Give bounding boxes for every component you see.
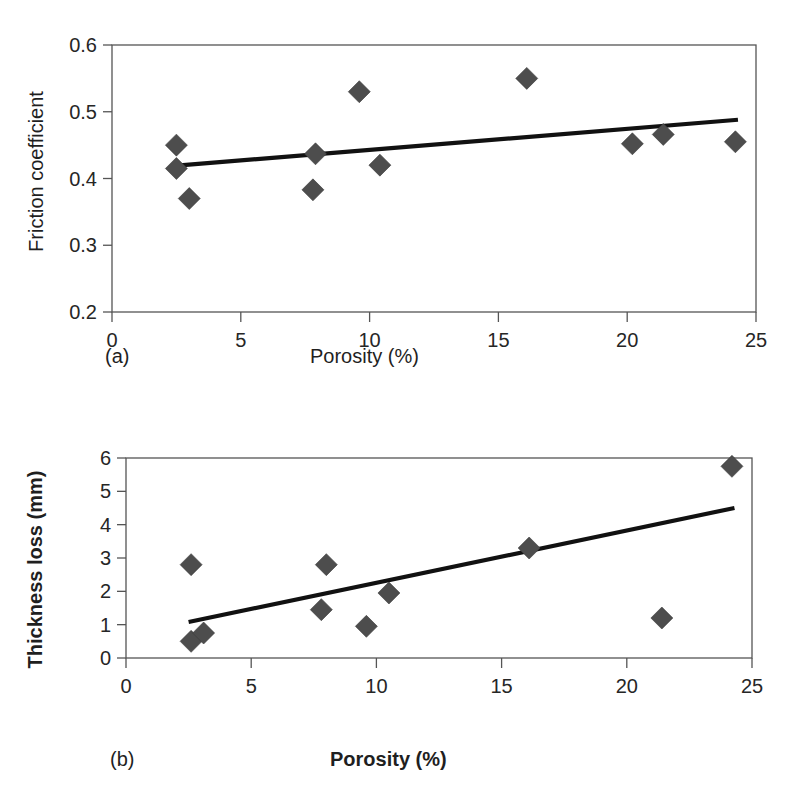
x-axis-title-a: Porosity (%) xyxy=(310,345,419,368)
data-point-marker xyxy=(369,154,391,176)
x-tick-label: 15 xyxy=(490,675,512,697)
y-tick-label: 5 xyxy=(100,480,111,502)
data-point-marker xyxy=(348,81,370,103)
data-point-marker xyxy=(302,179,324,201)
x-tick-label: 15 xyxy=(487,329,509,351)
x-tick-label: 5 xyxy=(235,329,246,351)
y-tick-label: 1 xyxy=(100,614,111,636)
y-axis-title-b: Thickness loss (mm) xyxy=(24,440,47,700)
chart-panel-b: 01234560510152025 Thickness loss (mm) Po… xyxy=(0,400,796,791)
data-point-marker xyxy=(355,615,377,637)
data-point-marker xyxy=(378,582,400,604)
data-point-marker xyxy=(516,67,538,89)
data-point-marker xyxy=(518,537,540,559)
y-tick-label: 0.2 xyxy=(69,301,97,323)
data-point-marker xyxy=(315,554,337,576)
x-tick-label: 25 xyxy=(741,675,763,697)
scatter-plot-b: 01234560510152025 xyxy=(0,400,796,791)
y-tick-label: 0.4 xyxy=(69,168,97,190)
y-tick-label: 4 xyxy=(100,514,111,536)
figure-container: 0.20.30.40.50.60510152025 Friction coeff… xyxy=(0,0,796,791)
y-tick-label: 0.3 xyxy=(69,234,97,256)
y-axis-title-a: Friction coefficient xyxy=(25,62,48,282)
trendline xyxy=(189,508,735,622)
y-tick-label: 0.5 xyxy=(69,101,97,123)
data-point-marker xyxy=(305,143,327,165)
scatter-plot-a: 0.20.30.40.50.60510152025 xyxy=(0,0,796,400)
data-point-marker xyxy=(165,157,187,179)
x-tick-label: 10 xyxy=(365,675,387,697)
plot-frame xyxy=(112,45,756,312)
data-point-marker xyxy=(165,134,187,156)
y-tick-label: 3 xyxy=(100,547,111,569)
y-tick-label: 0 xyxy=(100,647,111,669)
trendline xyxy=(174,120,738,166)
data-point-marker xyxy=(621,133,643,155)
y-tick-label: 6 xyxy=(100,447,111,469)
y-tick-label: 2 xyxy=(100,580,111,602)
data-point-marker xyxy=(651,607,673,629)
data-point-marker xyxy=(310,599,332,621)
x-tick-label: 20 xyxy=(616,329,638,351)
x-axis-title-b: Porosity (%) xyxy=(330,748,447,771)
x-tick-label: 25 xyxy=(745,329,767,351)
chart-panel-a: 0.20.30.40.50.60510152025 Friction coeff… xyxy=(0,0,796,400)
panel-label-a: (a) xyxy=(105,345,129,368)
panel-label-b: (b) xyxy=(110,748,134,771)
data-point-marker xyxy=(180,554,202,576)
x-tick-label: 5 xyxy=(246,675,257,697)
x-tick-label: 0 xyxy=(120,675,131,697)
plot-frame xyxy=(126,458,752,658)
data-point-marker xyxy=(178,188,200,210)
x-tick-label: 20 xyxy=(616,675,638,697)
data-point-marker xyxy=(724,131,746,153)
y-tick-label: 0.6 xyxy=(69,34,97,56)
